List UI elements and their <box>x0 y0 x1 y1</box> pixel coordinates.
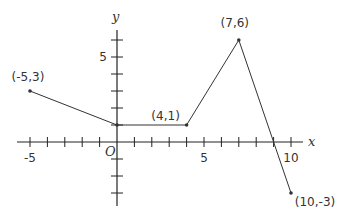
x-tick-label: 5 <box>200 151 208 165</box>
point-label: (10,-3) <box>295 195 335 209</box>
x-tick-label: -5 <box>24 151 36 165</box>
y-tick-label: 5 <box>99 50 107 64</box>
tick-labels: -55105 <box>24 50 299 165</box>
origin-label: O <box>105 144 116 159</box>
data-point <box>289 191 293 195</box>
coordinate-plot: xyO -55105 (-5,3)(4,1)(7,6)(10,-3) <box>0 0 355 220</box>
x-axis-label: x <box>308 134 316 149</box>
data-point <box>185 123 189 127</box>
axes: xyO <box>17 9 316 206</box>
y-axis-label: y <box>111 9 120 24</box>
data-point <box>237 38 241 42</box>
data-point <box>115 123 119 127</box>
point-label: (-5,3) <box>12 70 45 84</box>
point-label: (4,1) <box>151 109 179 123</box>
x-tick-label: 10 <box>283 151 298 165</box>
data-point <box>28 89 32 93</box>
point-label: (7,6) <box>221 16 249 30</box>
